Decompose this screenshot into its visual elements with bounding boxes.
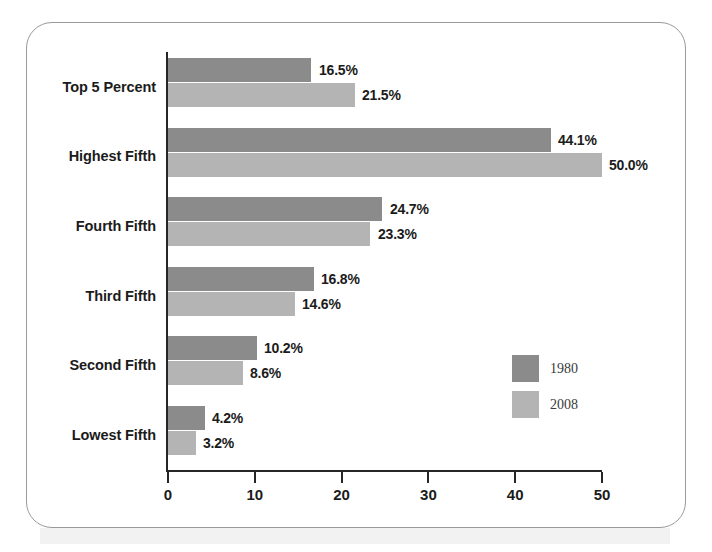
legend-swatch-icon [512, 391, 539, 418]
category-label-holder: Third Fifth [0, 261, 168, 331]
legend-item-2008[interactable]: 2008 [512, 391, 612, 418]
legend-swatch-icon [512, 355, 539, 382]
category-label: Top 5 Percent [62, 79, 156, 95]
bar-value-2008: 23.3% [378, 226, 417, 242]
category-label: Highest Fifth [69, 148, 156, 164]
bar-value-2008: 50.0% [609, 157, 648, 173]
bar-group: Third Fifth 16.8% 14.6% [168, 261, 602, 331]
bar-1980[interactable] [168, 197, 382, 221]
category-label-holder: Second Fifth [0, 330, 168, 400]
page-edge-shadow [40, 528, 670, 544]
bar-value-2008: 21.5% [362, 87, 401, 103]
bar-value-1980: 4.2% [212, 410, 243, 426]
category-label-holder: Top 5 Percent [0, 52, 168, 122]
x-axis-tick [601, 472, 603, 483]
chart-legend: 1980 2008 [512, 355, 612, 427]
bar-group: Fourth Fifth 24.7% 23.3% [168, 191, 602, 261]
bar-value-1980: 44.1% [558, 132, 597, 148]
bar-1980[interactable] [168, 58, 311, 82]
bar-2008[interactable] [168, 83, 355, 107]
category-label-holder: Highest Fifth [0, 122, 168, 192]
category-label: Second Fifth [69, 357, 156, 373]
bar-1980[interactable] [168, 267, 314, 291]
x-axis-tick [167, 472, 169, 483]
bar-value-1980: 16.8% [321, 271, 360, 287]
bar-value-1980: 16.5% [319, 62, 358, 78]
x-axis-tick-label: 40 [507, 486, 524, 503]
bar-value-2008: 3.2% [203, 435, 234, 451]
x-axis-tick-label: 0 [164, 486, 172, 503]
legend-label: 2008 [550, 397, 578, 413]
bar-group: Top 5 Percent 16.5% 21.5% [168, 52, 602, 122]
x-axis-line [166, 470, 602, 472]
x-axis-tick-label: 50 [594, 486, 611, 503]
category-label: Fourth Fifth [76, 218, 156, 234]
bar-2008[interactable] [168, 431, 196, 455]
bar-group: Highest Fifth 44.1% 50.0% [168, 122, 602, 192]
bar-1980[interactable] [168, 336, 257, 360]
legend-label: 1980 [550, 361, 578, 377]
x-axis-tick [341, 472, 343, 483]
category-label-holder: Lowest Fifth [0, 400, 168, 470]
legend-item-1980[interactable]: 1980 [512, 355, 612, 382]
bar-value-1980: 10.2% [264, 340, 303, 356]
category-label: Lowest Fifth [72, 427, 156, 443]
bar-value-1980: 24.7% [390, 201, 429, 217]
x-axis-tick [254, 472, 256, 483]
bar-1980[interactable] [168, 406, 205, 430]
bar-value-2008: 8.6% [250, 365, 281, 381]
bar-2008[interactable] [168, 153, 602, 177]
category-label-holder: Fourth Fifth [0, 191, 168, 261]
bar-2008[interactable] [168, 361, 243, 385]
x-axis-tick [514, 472, 516, 483]
bar-1980[interactable] [168, 128, 551, 152]
bar-value-2008: 14.6% [302, 296, 341, 312]
category-label: Third Fifth [85, 288, 156, 304]
x-axis-tick-label: 10 [246, 486, 263, 503]
x-axis-tick-label: 20 [333, 486, 350, 503]
x-axis-tick-label: 30 [420, 486, 437, 503]
bar-2008[interactable] [168, 292, 295, 316]
bar-2008[interactable] [168, 222, 370, 246]
x-axis-tick [427, 472, 429, 483]
